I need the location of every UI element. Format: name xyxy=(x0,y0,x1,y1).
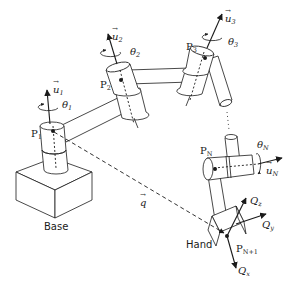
label-qx: Qx xyxy=(238,265,250,278)
vec-mark-u1: → xyxy=(53,78,59,86)
label-pn1: PN+1 xyxy=(236,243,258,256)
vec-mark-u2: → xyxy=(112,25,118,33)
axis-u1-arrow xyxy=(47,90,50,124)
rotation-theta2-icon xyxy=(101,50,121,57)
label-theta3: θ3 xyxy=(228,36,238,49)
axis-qx-arrow xyxy=(227,236,236,268)
label-qy: Qy xyxy=(262,219,274,232)
label-hand: Hand xyxy=(186,239,212,250)
vec-mark-un: → xyxy=(266,159,272,167)
label-theta2: θ2 xyxy=(130,46,140,59)
point-p3 xyxy=(203,56,207,60)
continuation-dots xyxy=(227,112,229,130)
joint-3 xyxy=(177,44,233,108)
point-pn xyxy=(213,167,217,171)
joint-1 xyxy=(40,95,130,174)
label-pn: PN xyxy=(200,145,213,158)
vec-mark-u3: → xyxy=(225,7,231,15)
label-thetan: θN xyxy=(257,139,269,152)
robot-arm-diagram: u1 → θ1 P1 u2 → θ2 P2 u3 → θ3 P3 θN uN →… xyxy=(0,0,294,281)
label-qz: Qz xyxy=(250,195,262,208)
vec-mark-q: → xyxy=(140,191,146,199)
point-p2 xyxy=(119,78,123,82)
label-base: Base xyxy=(44,221,68,232)
axis-u3-arrow xyxy=(207,14,222,48)
label-theta1: θ1 xyxy=(62,99,72,112)
joint-2 xyxy=(105,60,191,128)
